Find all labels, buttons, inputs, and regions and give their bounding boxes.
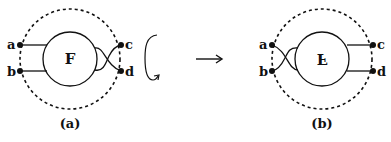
endpoint-c [118, 42, 124, 48]
label-d: d [377, 64, 386, 79]
strand-from-b [272, 48, 298, 71]
endpoint-d [118, 68, 124, 74]
label-a: a [259, 37, 268, 52]
label-a: a [7, 37, 16, 52]
tangle-rotation-diagram: a b c d F (a) a b c d F (b) [0, 0, 391, 142]
panel-a: a b c d F (a) [7, 9, 134, 131]
label-b: b [7, 64, 16, 79]
label-b: b [259, 64, 268, 79]
panel-b: a b c d F (b) [259, 9, 386, 131]
transition-arrow-icon [196, 55, 222, 63]
label-c: c [377, 37, 385, 52]
caption-a: (a) [60, 116, 81, 131]
endpoint-a [17, 42, 23, 48]
endpoint-a [269, 42, 275, 48]
endpoint-b [269, 68, 275, 74]
endpoint-d [370, 68, 376, 74]
tangle-label-f: F [65, 50, 76, 68]
tangle-label-f-flipped: F [317, 50, 328, 68]
endpoint-b [17, 68, 23, 74]
caption-b: (b) [311, 116, 332, 131]
rotation-arrow-icon [145, 35, 159, 80]
endpoint-c [370, 42, 376, 48]
label-c: c [125, 37, 133, 52]
label-d: d [125, 64, 134, 79]
